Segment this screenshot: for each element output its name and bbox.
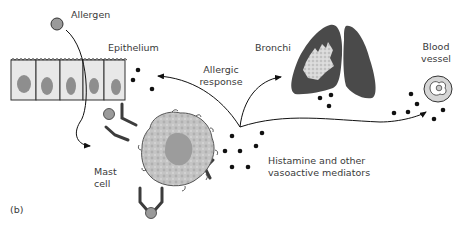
label-allergic: Allergic — [196, 64, 246, 76]
label-blood-vessel: Blood vessel — [416, 41, 455, 65]
allergen-bound-2 — [146, 208, 157, 219]
label-blood: Blood — [416, 41, 455, 53]
label-epithelium: Epithelium — [108, 42, 159, 54]
diagram-canvas — [0, 0, 455, 227]
label-vasoactive: vasoactive mediators — [268, 167, 370, 179]
allergen-bound-1 — [104, 109, 115, 120]
label-mast: Mast — [94, 166, 117, 178]
label-response: response — [196, 76, 246, 88]
label-bronchi: Bronchi — [255, 42, 291, 54]
mediator-granules-epithelium — [131, 68, 155, 92]
label-cell: cell — [94, 178, 117, 190]
blood-vessel — [424, 76, 452, 102]
allergen-particle — [51, 18, 63, 30]
label-mediators: Histamine and other vasoactive mediators — [268, 155, 370, 179]
label-vessel: vessel — [416, 53, 455, 65]
label-allergen: Allergen — [71, 9, 110, 21]
label-allergic-response: Allergic response — [196, 64, 246, 88]
epithelium — [11, 59, 127, 101]
label-mast-cell: Mast cell — [94, 166, 117, 190]
mast-cell — [138, 110, 217, 191]
arrow-to-blood-vessel — [240, 112, 426, 127]
lungs — [291, 25, 375, 99]
panel-label: (b) — [10, 204, 23, 216]
label-histamine: Histamine and other — [268, 155, 370, 167]
mediator-granules-center — [223, 131, 265, 170]
